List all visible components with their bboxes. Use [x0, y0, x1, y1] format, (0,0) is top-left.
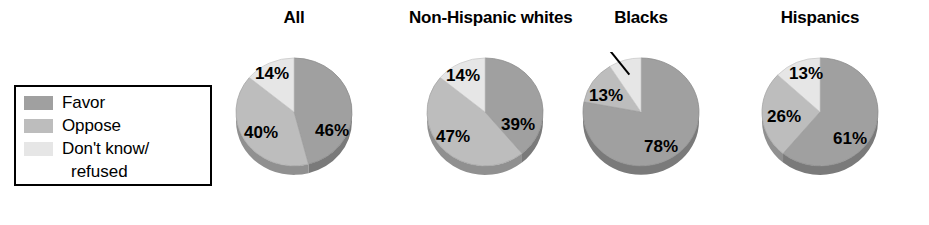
- pie-svg: 39%47%14%: [409, 52, 561, 222]
- pie-slice-label: 13%: [789, 64, 823, 83]
- pie-slice-label: 46%: [315, 121, 349, 140]
- pie-slice-label: 61%: [833, 129, 867, 148]
- pie-svg: 61%26%13%: [749, 52, 891, 222]
- pie-slice-label: 47%: [436, 127, 470, 146]
- pie-svg: 46%40%14%: [232, 52, 356, 222]
- pie-slice-label: 14%: [255, 64, 289, 83]
- pie-slice-label: 40%: [244, 123, 278, 142]
- pie-slice-label: 26%: [767, 107, 801, 126]
- legend-swatch-oppose: [24, 119, 53, 133]
- legend-label-oppose: Oppose: [62, 115, 121, 137]
- pie-chart-blacks: Blacks78%13%9%: [577, 0, 705, 225]
- legend-item-oppose: Oppose: [24, 115, 210, 138]
- pie-slice-label: 39%: [501, 115, 535, 134]
- legend-item-favor: Favor: [24, 92, 210, 115]
- pie-title: Blacks: [577, 8, 705, 28]
- pie-chart-hispanics: Hispanics61%26%13%: [749, 0, 891, 225]
- legend-label-dont-know-cont: refused: [71, 161, 210, 182]
- pie-slice-label: 13%: [589, 86, 623, 105]
- pie-slice-label: 14%: [446, 66, 480, 85]
- legend-item-dont-know: Don't know/: [24, 138, 210, 161]
- pie-chart-all: All46%40%14%: [232, 0, 356, 225]
- pie-title: Hispanics: [749, 8, 891, 28]
- pie-svg: 78%13%9%: [577, 52, 705, 222]
- legend-swatch-favor: [24, 96, 53, 110]
- legend-box: Favor Oppose Don't know/ refused: [14, 85, 212, 186]
- pie-title: Non-Hispanic whites: [409, 8, 561, 28]
- pie-chart-non-hispanic-whites: Non-Hispanic whites39%47%14%: [409, 0, 561, 225]
- legend-label-dont-know: Don't know/: [62, 138, 149, 160]
- pie-slice-label: 78%: [644, 137, 678, 156]
- legend-label-favor: Favor: [62, 92, 105, 114]
- pie-title: All: [232, 8, 356, 28]
- legend-swatch-dont-know: [24, 142, 53, 156]
